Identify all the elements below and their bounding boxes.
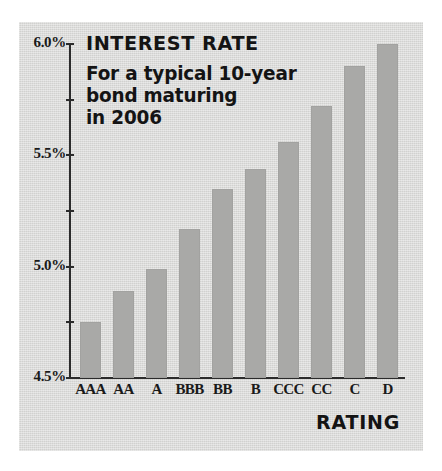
y-tick-mark [66, 266, 74, 268]
y-tick-label: 5.5% [19, 145, 66, 162]
chart-subtitle-line-3: in 2006 [86, 106, 297, 128]
bar-a [146, 269, 167, 378]
bar-bbb [179, 229, 200, 378]
chart-subtitle-line-1: For a typical 10-year [86, 62, 297, 84]
x-tick-label-d: D [365, 381, 411, 398]
bar-ccc [278, 142, 299, 378]
chart-figure: 6.0%5.5%5.0%4.5% AAAAAABBBBBBCCCCCCD INT… [0, 0, 442, 471]
bar-d [377, 44, 398, 378]
x-axis-title: RATING [316, 411, 400, 433]
bar-bb [212, 189, 233, 378]
y-tick-label: 5.0% [19, 257, 66, 274]
bar-aa [113, 291, 134, 378]
bar-cc [311, 106, 332, 378]
chart-panel: 6.0%5.5%5.0%4.5% AAAAAABBBBBBCCCCCCD INT… [19, 22, 423, 451]
y-tick-mark [66, 377, 74, 379]
bar-aaa [80, 322, 101, 378]
bar-c [344, 66, 365, 378]
y-tick-mark [66, 154, 74, 156]
chart-subtitle: For a typical 10-year bond maturing in 2… [86, 62, 297, 128]
y-tick-label: 4.5% [19, 368, 66, 385]
bar-b [245, 169, 266, 378]
y-tick-label: 6.0% [19, 34, 66, 51]
chart-subtitle-line-2: bond maturing [86, 84, 297, 106]
chart-title: INTEREST RATE [86, 31, 259, 55]
y-tick-mark [66, 210, 74, 212]
y-tick-mark [66, 99, 74, 101]
y-tick-mark [66, 43, 74, 45]
y-tick-mark [66, 321, 74, 323]
